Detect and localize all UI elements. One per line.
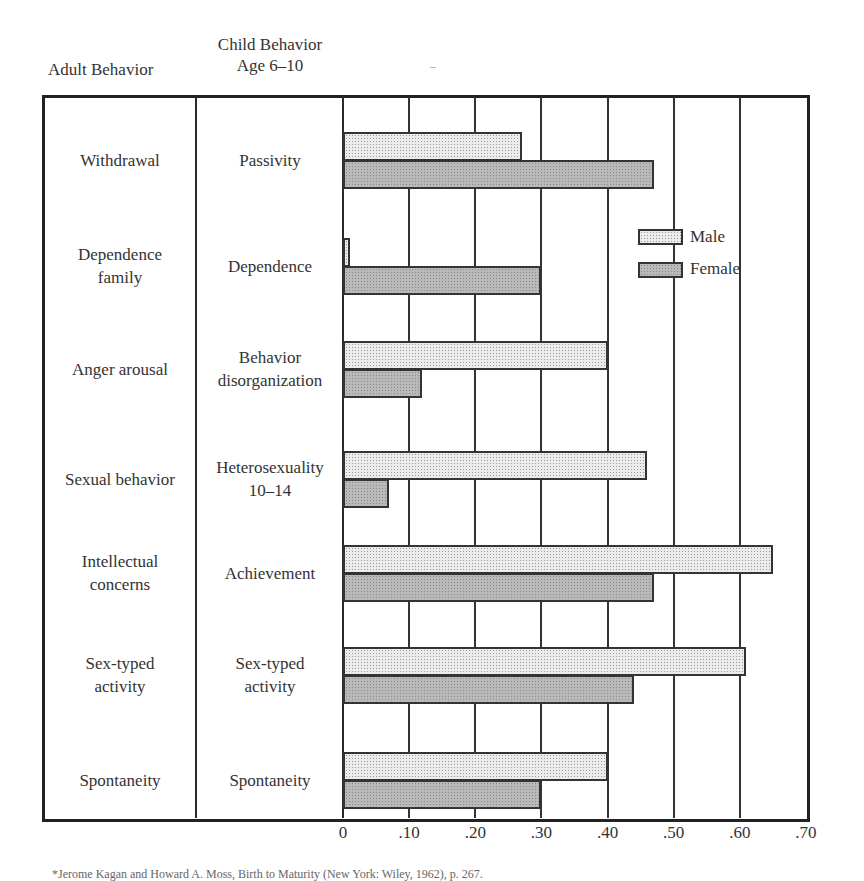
bar-male — [343, 545, 773, 574]
adult-behavior-label-line: Withdrawal — [80, 149, 160, 172]
adult-behavior-label-line: Dependence — [78, 243, 162, 266]
bar-male — [343, 451, 647, 480]
bar-female — [343, 266, 541, 295]
adult-behavior-label-line: Sexual behavior — [65, 468, 175, 491]
adult-behavior-label: Spontaneity — [79, 769, 160, 792]
adult-behavior-header: Adult Behavior — [48, 59, 153, 80]
child-behavior-label-line: disorganization — [218, 369, 323, 392]
x-tick-label: .10 — [399, 823, 420, 843]
source-footnote: *Jerome Kagan and Howard A. Moss, Birth … — [52, 867, 483, 881]
child-behavior-header-line1: Child Behavior — [205, 34, 335, 55]
child-behavior-label: Sex-typedactivity — [236, 652, 305, 698]
child-behavior-label-line: Achievement — [225, 562, 316, 585]
child-behavior-header-line2: Age 6–10 — [205, 55, 335, 76]
bar-female — [343, 573, 654, 602]
x-tick-label: .70 — [795, 823, 816, 843]
child-behavior-label-line: Passivity — [239, 149, 300, 172]
child-behavior-label-line: Dependence — [228, 255, 312, 278]
child-behavior-label: Heterosexuality10–14 — [216, 456, 324, 502]
adult-behavior-label: Sexual behavior — [65, 468, 175, 491]
adult-behavior-label-line: Sex-typed — [86, 652, 155, 675]
adult-behavior-label-line: concerns — [82, 573, 158, 596]
child-behavior-label: Dependence — [228, 255, 312, 278]
x-tick-label: .60 — [729, 823, 750, 843]
adult-behavior-label-line: Spontaneity — [79, 769, 160, 792]
column-divider-adult-child — [195, 96, 197, 818]
gridline — [673, 97, 675, 818]
child-behavior-label: Passivity — [239, 149, 300, 172]
adult-behavior-label: Intellectualconcerns — [82, 550, 158, 596]
child-behavior-label-line: Behavior — [218, 346, 323, 369]
x-tick-label: .30 — [531, 823, 552, 843]
child-behavior-label: Achievement — [225, 562, 316, 585]
child-behavior-label-line: activity — [236, 675, 305, 698]
x-tick-label: .40 — [597, 823, 618, 843]
child-behavior-label: Spontaneity — [229, 769, 310, 792]
x-tick-label: 0 — [339, 823, 348, 843]
bar-male — [343, 341, 608, 370]
bar-female — [343, 160, 654, 189]
adult-behavior-label-line: family — [78, 266, 162, 289]
adult-behavior-label: Anger arousal — [72, 358, 168, 381]
bar-male — [343, 132, 522, 161]
bar-male — [343, 647, 746, 676]
bar-female — [343, 780, 541, 809]
x-tick-label: .50 — [663, 823, 684, 843]
child-behavior-label-line: 10–14 — [216, 479, 324, 502]
bar-female — [343, 479, 389, 508]
bar-male — [343, 752, 608, 781]
child-behavior-label: Behaviordisorganization — [218, 346, 323, 392]
bar-female — [343, 369, 422, 398]
legend-label-female: Female — [690, 259, 740, 279]
adult-behavior-label: Sex-typedactivity — [86, 652, 155, 698]
print-artifact — [430, 67, 436, 68]
adult-behavior-label: Withdrawal — [80, 149, 160, 172]
adult-behavior-label-line: Intellectual — [82, 550, 158, 573]
child-behavior-label-line: Sex-typed — [236, 652, 305, 675]
x-tick-label: .20 — [465, 823, 486, 843]
bar-male — [343, 238, 350, 267]
child-behavior-label-line: Heterosexuality — [216, 456, 324, 479]
adult-behavior-label-line: activity — [86, 675, 155, 698]
bar-female — [343, 675, 634, 704]
adult-behavior-label: Dependencefamily — [78, 243, 162, 289]
legend-swatch-male — [638, 229, 683, 245]
child-behavior-label-line: Spontaneity — [229, 769, 310, 792]
gridline — [739, 97, 741, 818]
legend-label-male: Male — [690, 227, 725, 247]
adult-behavior-label-line: Anger arousal — [72, 358, 168, 381]
legend-swatch-female — [638, 262, 683, 278]
child-behavior-header: Child Behavior Age 6–10 — [205, 34, 335, 76]
